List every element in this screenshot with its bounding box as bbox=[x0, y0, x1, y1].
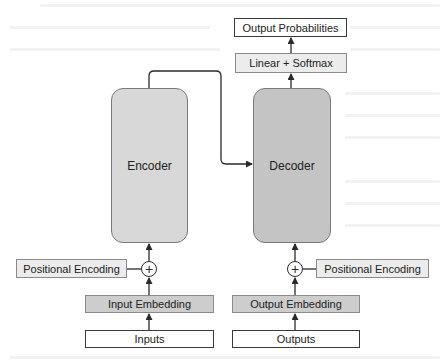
output-embedding-box: Output Embedding bbox=[232, 295, 360, 313]
output-probabilities-box: Output Probabilities bbox=[234, 18, 347, 37]
input-embedding-label: Input Embedding bbox=[108, 298, 191, 310]
plus-symbol: + bbox=[145, 262, 153, 276]
encoder-positional-encoding-box: Positional Encoding bbox=[16, 259, 127, 278]
encoder-positional-encoding-label: Positional Encoding bbox=[23, 263, 120, 275]
inputs-box: Inputs bbox=[85, 330, 214, 348]
decoder-block: Decoder bbox=[253, 88, 331, 243]
output-probabilities-label: Output Probabilities bbox=[243, 22, 339, 34]
plus-symbol: + bbox=[291, 262, 299, 276]
encoder-label: Encoder bbox=[127, 159, 172, 173]
inputs-label: Inputs bbox=[135, 333, 165, 345]
decoder-positional-encoding-label: Positional Encoding bbox=[324, 263, 421, 275]
decoder-label: Decoder bbox=[269, 159, 314, 173]
encoder-add-icon: + bbox=[141, 261, 157, 277]
output-embedding-label: Output Embedding bbox=[250, 298, 342, 310]
decoder-positional-encoding-box: Positional Encoding bbox=[316, 259, 429, 278]
diagram-connectors bbox=[0, 0, 447, 364]
input-embedding-box: Input Embedding bbox=[85, 295, 214, 313]
decoder-add-icon: + bbox=[287, 261, 303, 277]
linear-softmax-box: Linear + Softmax bbox=[235, 53, 347, 73]
encoder-block: Encoder bbox=[111, 88, 188, 243]
outputs-box: Outputs bbox=[232, 330, 360, 348]
outputs-label: Outputs bbox=[277, 333, 316, 345]
linear-softmax-label: Linear + Softmax bbox=[249, 57, 332, 69]
